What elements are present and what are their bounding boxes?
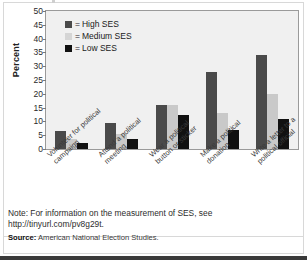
source-text: American National Election Studies. [38, 233, 159, 242]
bar-chart: Percent 05101520253035404550 = High SES … [3, 3, 304, 206]
figure-container: Percent 05101520253035404550 = High SES … [0, 0, 307, 265]
y-tick-label: 5 [27, 130, 43, 140]
x-axis-labels: Volunteer for political campaignAttend a… [45, 151, 299, 209]
bottom-margin [0, 261, 307, 265]
y-tick-label: 20 [27, 89, 43, 99]
y-tick-label: 10 [27, 116, 43, 126]
y-tick-mark [43, 149, 46, 150]
y-tick-label: 25 [27, 75, 43, 85]
figure-source: Source: American National Election Studi… [8, 233, 300, 243]
figure-footer: Note: For information on the measurement… [8, 208, 300, 243]
y-tick-label: 45 [27, 20, 43, 30]
legend-label-low-ses: Low SES [82, 43, 117, 53]
y-axis-label: Percent [11, 30, 21, 90]
y-tick-label: 0 [27, 144, 43, 154]
figure-note: Note: For information on the measurement… [8, 208, 300, 230]
y-tick-label: 15 [27, 103, 43, 113]
y-tick-label: 35 [27, 47, 43, 57]
y-tick-label: 50 [27, 6, 43, 16]
legend-swatch-icon-medium-ses [65, 33, 72, 40]
legend-item-medium-ses: = Medium SES [65, 31, 132, 41]
bar [256, 55, 267, 149]
legend-label-medium-ses: Medium SES [82, 31, 132, 41]
legend-equals-sign: = [75, 31, 80, 41]
legend-label-high-ses: High SES [82, 19, 119, 29]
legend-swatch-icon-low-ses [65, 45, 72, 52]
legend-item-low-ses: = Low SES [65, 43, 132, 53]
chart-legend: = High SES = Medium SES = Low SES [65, 19, 132, 53]
y-tick-label: 30 [27, 61, 43, 71]
y-tick-label: 40 [27, 34, 43, 44]
legend-item-high-ses: = High SES [65, 19, 132, 29]
legend-equals-sign: = [75, 43, 80, 53]
legend-equals-sign: = [75, 19, 80, 29]
legend-swatch-icon-high-ses [65, 21, 72, 28]
source-label: Source: [8, 233, 36, 242]
bottom-rule [0, 256, 307, 260]
